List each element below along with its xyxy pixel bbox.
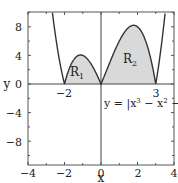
x-tick-label-2: 2 — [135, 167, 142, 180]
y-tick-label-neg4: −4 — [6, 107, 22, 120]
y-tick-label-8: 8 — [15, 21, 22, 34]
y-tick-label-0: 0 — [15, 78, 22, 91]
chart: 8 4 0 −4 −8 y −4 −2 0 2 4 x −2 3 R1 R2 y… — [0, 0, 178, 183]
equation-annotation: y = |x3 − x2 − 6x| — [103, 97, 178, 111]
y-tick-label-4: 4 — [15, 50, 22, 63]
x-axis-label: x — [98, 171, 105, 183]
x-tick-label-neg2: −2 — [56, 167, 72, 180]
x-tick-label-neg4: −4 — [20, 167, 36, 180]
root-label-neg2: −2 — [56, 87, 72, 100]
x-tick-label-4: 4 — [171, 167, 178, 180]
y-tick-label-neg8: −8 — [6, 136, 22, 149]
y-axis-label: y — [3, 77, 11, 91]
